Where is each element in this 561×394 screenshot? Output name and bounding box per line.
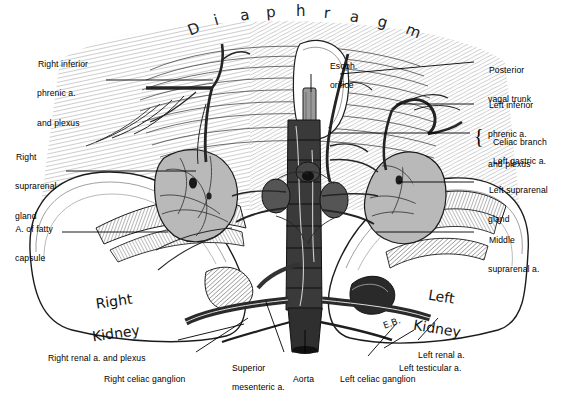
label-esophageal-orifice: Esoph. orifice: [320, 52, 357, 101]
label-superior-mesenteric-artery: Superior mesenteric a.: [222, 354, 285, 394]
label-line: gland: [479, 215, 548, 225]
label-left-celiac-ganglion: Left celiac ganglion: [340, 375, 416, 385]
label-line: Left gastric a.: [493, 156, 546, 166]
right-kidney-label: Right Kidney: [75, 274, 143, 361]
label-line: orifice: [330, 80, 354, 90]
right-kidney-label-line1: Right: [95, 291, 134, 312]
label-left-testicular-artery: Left testicular a.: [399, 364, 461, 374]
label-line: Superior: [232, 363, 265, 373]
label-left-renal-artery: Left renal a.: [418, 351, 465, 361]
label-line: mesenteric a.: [232, 382, 285, 392]
label-line: and plexus: [28, 119, 88, 129]
right-suprarenal-gland-organ: [155, 150, 238, 242]
left-kidney-label-line1: Left: [427, 287, 456, 307]
label-line: suprarenal a.: [479, 265, 539, 275]
label-line: A. of fatty: [15, 224, 52, 234]
label-right-renal-artery-and-plexus: Right renal a. and plexus: [48, 354, 146, 364]
label-right-celiac-ganglion: Right celiac ganglion: [104, 375, 185, 385]
label-artery-of-fatty-capsule: A. of fatty capsule: [6, 215, 53, 284]
left-kidney-label-line2: Kidney: [412, 317, 462, 340]
right-kidney-label-line2: Kidney: [91, 322, 140, 344]
label-line: Celiac branch: [493, 137, 547, 147]
label-middle-suprarenal-artery: Middle suprarenal a.: [479, 226, 539, 295]
label-line: Posterior: [489, 65, 524, 75]
label-line: Right inferior: [38, 59, 88, 69]
label-line: Right: [16, 152, 37, 162]
label-line: Esoph.: [330, 61, 357, 71]
label-celiac-branch-left-gastric: Celiac branch Left gastric a.: [483, 128, 547, 177]
label-line: suprarenal: [6, 182, 57, 192]
title-letter: p: [265, 3, 276, 22]
label-right-inferior-phrenic: Right inferior phrenic a. and plexus: [28, 50, 88, 148]
label-line: phrenic a.: [28, 89, 88, 99]
label-line: capsule: [6, 254, 53, 264]
label-aorta: Aorta: [293, 375, 314, 385]
label-line: Middle: [489, 235, 515, 245]
aorta-vessel: [286, 120, 322, 354]
label-line: Left suprarenal: [489, 185, 548, 195]
title-letter: h: [296, 2, 306, 20]
label-line: Left inferior: [489, 100, 533, 110]
